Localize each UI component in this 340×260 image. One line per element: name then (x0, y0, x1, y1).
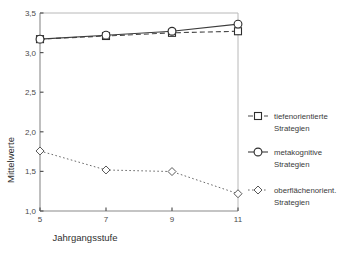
legend-item-metakognitive[interactable]: metakognitive Strategien (248, 148, 322, 169)
legend-square-icon (255, 113, 262, 120)
line-chart-canvas: 1,0 1,5 2,0 2,5 3,0 3,5 5 7 9 11 Jahrgan… (0, 0, 340, 260)
data-point-marker (168, 27, 176, 35)
data-point-marker (36, 147, 44, 155)
x-tick-label-9: 9 (170, 215, 175, 224)
data-point-marker (168, 168, 176, 176)
y-tick-label-1-5: 1,5 (25, 167, 37, 176)
data-point-marker (234, 190, 242, 198)
data-point-marker (234, 20, 242, 28)
data-point-marker (235, 28, 242, 35)
legend-diamond-icon (254, 186, 262, 194)
legend-item-oberflaechenorient[interactable]: oberflächenorient. Strategien (248, 186, 336, 207)
legend-label-line2: Strategien (274, 124, 310, 133)
x-axis-title: Jahrgangsstufe (53, 232, 118, 243)
data-point-marker (36, 35, 44, 43)
legend-item-tiefenorientierte[interactable]: tiefenorientierte Strategien (248, 112, 328, 133)
legend-label-line1: tiefenorientierte (274, 112, 328, 121)
series-line-oberflaechenorient (40, 151, 238, 194)
y-tick-label-3-5: 3,5 (25, 9, 37, 18)
legend-label-line1: metakognitive (274, 148, 322, 157)
y-tick-label-1-0: 1,0 (25, 207, 37, 216)
x-tick-label-5: 5 (38, 215, 43, 224)
legend-label-line2: Strategien (274, 198, 310, 207)
legend-circle-icon (254, 148, 262, 156)
y-tick-label-2-5: 2,5 (25, 88, 37, 97)
data-point-marker (102, 166, 110, 174)
legend-label-line1: oberflächenorient. (274, 186, 336, 195)
legend: tiefenorientierte Strategien metakogniti… (248, 112, 336, 207)
y-tick-label-3-0: 3,0 (25, 49, 37, 58)
x-tick-label-7: 7 (104, 215, 109, 224)
series-line-tiefenorientierte (40, 31, 238, 39)
y-tick-label-2-0: 2,0 (25, 128, 37, 137)
legend-label-line2: Strategien (274, 160, 310, 169)
y-axis-title: Mittelwerte (5, 137, 16, 183)
data-point-marker (102, 31, 110, 39)
x-tick-label-11: 11 (234, 215, 243, 224)
chart-figure: 1,0 1,5 2,0 2,5 3,0 3,5 5 7 9 11 Jahrgan… (0, 0, 340, 260)
